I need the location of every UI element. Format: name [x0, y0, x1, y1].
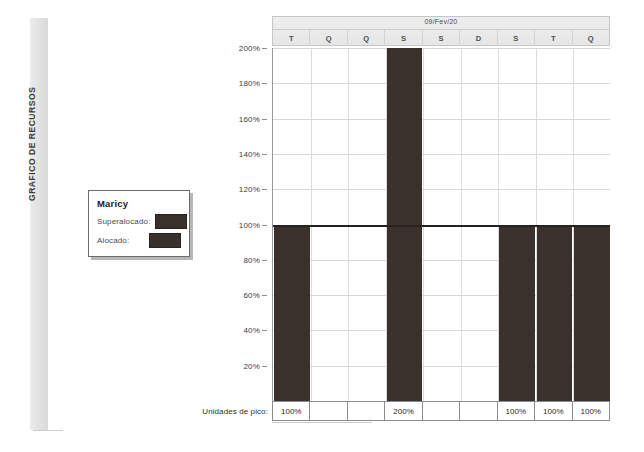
y-axis-tick — [262, 189, 267, 190]
document-side-rule — [33, 430, 63, 431]
y-axis-tick-label: 200% — [239, 44, 260, 53]
peak-units-cells: 100%200%100%100%100% — [272, 401, 610, 421]
y-axis-tick-label: 180% — [239, 79, 260, 88]
timeline-day-cell[interactable]: D — [460, 30, 497, 46]
bar[interactable] — [499, 225, 535, 402]
peak-units-cell[interactable]: 200% — [385, 402, 422, 420]
plot-area — [272, 48, 610, 401]
timeline-day-cell[interactable]: T — [535, 30, 572, 46]
y-axis-tick — [262, 260, 267, 261]
peak-units-cell[interactable]: 100% — [573, 402, 610, 420]
y-axis-tick-label: 100% — [239, 220, 260, 229]
legend-title: Maricy — [97, 198, 181, 209]
gridline — [273, 119, 610, 120]
peak-units-cell[interactable]: 100% — [273, 402, 310, 420]
y-axis-tick — [262, 154, 267, 155]
timeline-day-cell[interactable]: S — [385, 30, 422, 46]
legend-item-superalocado: Superalocado: — [97, 214, 181, 229]
legend-item-label: Alocado: — [97, 236, 129, 245]
y-axis-tick — [262, 83, 267, 84]
y-axis-tick-label: 20% — [243, 361, 260, 370]
timeline-header: 09/Fev/20 TQQSSDSTQ — [272, 16, 610, 46]
peak-units-row: Unidades de pico: 100%200%100%100%100% — [185, 401, 610, 421]
gridline — [273, 189, 610, 190]
timeline-day-cell[interactable]: Q — [310, 30, 347, 46]
timeline-day-row: TQQSSDSTQ — [273, 29, 609, 46]
resource-graph: 09/Fev/20 TQQSSDSTQ 20%40%60%80%100%120%… — [185, 16, 615, 436]
timeline-date-label: 09/Fev/20 — [273, 18, 609, 25]
y-axis-tick-label: 40% — [243, 326, 260, 335]
peak-units-cell[interactable]: 100% — [535, 402, 572, 420]
gridline — [273, 83, 610, 84]
y-axis-tick-label: 60% — [243, 291, 260, 300]
peak-units-underline — [272, 422, 372, 423]
bar[interactable] — [537, 225, 573, 402]
bar[interactable] — [574, 225, 610, 402]
y-axis-tick — [262, 366, 267, 367]
y-axis-tick — [262, 225, 267, 226]
timeline-day-cell[interactable]: Q — [573, 30, 609, 46]
gridline — [273, 48, 610, 49]
y-axis-tick — [262, 295, 267, 296]
legend-item-alocado: Alocado: — [97, 233, 181, 248]
y-axis-tick-label: 120% — [239, 185, 260, 194]
y-axis-tick — [262, 330, 267, 331]
timeline-day-cell[interactable]: S — [423, 30, 460, 46]
legend-swatch-superalocado — [155, 214, 187, 229]
y-axis-tick-label: 160% — [239, 114, 260, 123]
legend-panel: Maricy Superalocado: Alocado: — [88, 190, 190, 257]
peak-units-cell[interactable] — [310, 402, 347, 420]
legend-item-label: Superalocado: — [97, 217, 151, 226]
y-axis-tick-label: 80% — [243, 255, 260, 264]
y-axis-tick — [262, 48, 267, 49]
bar[interactable] — [274, 225, 310, 402]
peak-units-cell[interactable]: 100% — [498, 402, 535, 420]
peak-units-cell[interactable] — [460, 402, 497, 420]
timeline-day-cell[interactable]: T — [273, 30, 310, 46]
gridline — [273, 154, 610, 155]
y-axis-tick — [262, 119, 267, 120]
y-axis-tick-label: 140% — [239, 149, 260, 158]
capacity-line — [273, 225, 610, 227]
peak-units-cell[interactable] — [348, 402, 385, 420]
peak-units-label: Unidades de pico: — [185, 401, 268, 421]
timeline-day-cell[interactable]: S — [498, 30, 535, 46]
legend-swatch-alocado — [149, 233, 181, 248]
y-axis: 20%40%60%80%100%120%140%160%180%200% — [185, 48, 268, 401]
peak-units-cell[interactable] — [423, 402, 460, 420]
document-side-label: GRAFICO DE RECURSOS — [27, 71, 37, 201]
timeline-day-cell[interactable]: Q — [348, 30, 385, 46]
